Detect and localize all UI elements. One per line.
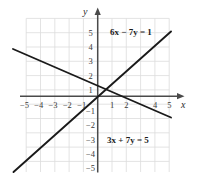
y-tick-label-3: 3 [89,57,93,66]
x-tick-label-5: 5 [167,101,171,110]
x-tick-label-minus4: −4 [34,101,43,110]
x-tick-label-minus3: −3 [49,101,58,110]
equation-top-text: 6x − 7y = 1 [110,27,152,37]
x-tick-label-minus5: −5 [20,101,29,110]
equation-label-top: 6x − 7y = 1 [110,28,152,37]
y-tick-label-minus4: −4 [86,150,95,159]
equation-label-bottom: 3x + 7y = 5 [107,136,149,145]
y-tick-label-1: 1 [89,86,93,95]
y-axis-label: y [83,7,87,17]
plot-canvas [0,0,197,186]
x-axis-label: x [181,100,185,110]
y-tick-label-4: 4 [89,43,93,52]
x-tick-label-2: 2 [124,101,128,110]
y-tick-label-minus5: −5 [86,164,95,173]
y-tick-label-minus2: −2 [86,121,95,130]
y-tick-label-5: 5 [89,29,93,38]
equation-bottom-text: 3x + 7y = 5 [107,135,149,145]
y-tick-label-2: 2 [89,72,93,81]
x-tick-label-4: 4 [153,101,157,110]
x-tick-label-1: 1 [110,101,114,110]
y-tick-label-minus1: −1 [86,107,95,116]
y-tick-label-minus3: −3 [86,136,95,145]
x-tick-label-minus2: −2 [63,101,72,110]
coordinate-graph-figure: y x −5 −4 −3 −2 −1 1 2 4 5 5 4 3 2 1 −1 … [0,0,197,186]
x-tick-label-minus1: −1 [77,101,86,110]
y-axis-arrowhead [95,8,101,16]
